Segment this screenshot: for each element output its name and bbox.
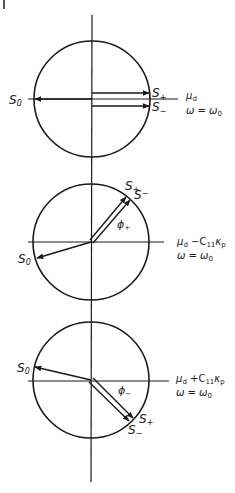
panel-2-s0-label: S0: [18, 252, 31, 267]
panel-2-s-minus-arrow: [93, 200, 130, 243]
panel-2-s0-arrow: [37, 242, 91, 258]
panel-3-s-plus-arrow: [93, 378, 133, 418]
panel-1-s-minus-label: S−: [152, 100, 166, 116]
panel-1-mu-label: μd: [185, 90, 197, 103]
panel-2-omega-label: ω = ω0: [177, 250, 213, 263]
panel-1-omega-label: ω = ω0: [186, 105, 222, 118]
panel-2-phi-label: ϕ+: [117, 218, 130, 232]
panel-3: S0 S+ S− ϕ− μd +C11κp ω = ω0: [17, 322, 225, 438]
panel-3-mu-label: μd +C11κp: [175, 373, 225, 386]
panel-3-s0-arrow: [35, 367, 91, 380]
panel-2-s-minus-label: S−: [134, 188, 148, 202]
panel-3-omega-label: ω = ω0: [176, 387, 212, 400]
panel-2: S0 S+ S− ϕ+ μd −C11κp ω = ω0: [18, 179, 226, 300]
panel-1: S0 S+ S− μd ω = ω0: [9, 41, 222, 157]
panel-3-phi-label: ϕ−: [118, 384, 131, 398]
panel-3-s-plus-label: S+: [139, 412, 153, 427]
panel-2-mu-label: μd −C11κp: [176, 236, 226, 249]
panel-3-s0-label: S0: [17, 361, 30, 376]
polarization-phasor-diagram: S0 S+ S− μd ω = ω0 S0 S+ S− ϕ+ μd −C11κp…: [0, 0, 235, 493]
vertical-axis: [91, 15, 92, 482]
panel-1-s0-label: S0: [9, 93, 22, 108]
